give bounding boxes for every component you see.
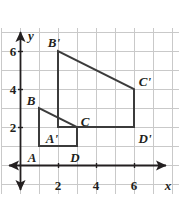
coordinate-plane-svg: 2 4 6 2 4 6 x y A B C D A' B' C' D' bbox=[0, 0, 180, 204]
vertex-label-b: B bbox=[26, 93, 36, 108]
vertex-label-c-prime: C' bbox=[139, 74, 152, 89]
x-tick-label-4: 4 bbox=[93, 178, 100, 193]
vertex-label-d: D bbox=[69, 150, 80, 165]
grid-lines bbox=[1, 28, 179, 194]
vertex-label-c: C bbox=[81, 114, 90, 129]
y-axis-label: y bbox=[26, 28, 34, 43]
x-tick-label-6: 6 bbox=[131, 178, 138, 193]
x-tick-label-2: 2 bbox=[55, 178, 62, 193]
coordinate-plane-figure: 2 4 6 2 4 6 x y A B C D A' B' C' D' bbox=[0, 0, 180, 204]
x-axis-label: x bbox=[164, 178, 172, 193]
y-tick-label-6: 6 bbox=[10, 44, 17, 59]
vertex-label-a-prime: A' bbox=[45, 131, 59, 146]
vertex-label-d-prime: D' bbox=[138, 131, 152, 146]
y-tick-label-2: 2 bbox=[10, 120, 17, 135]
vertex-label-a: A bbox=[27, 150, 37, 165]
vertex-label-b-prime: B' bbox=[47, 35, 61, 50]
y-tick-label-4: 4 bbox=[10, 82, 17, 97]
